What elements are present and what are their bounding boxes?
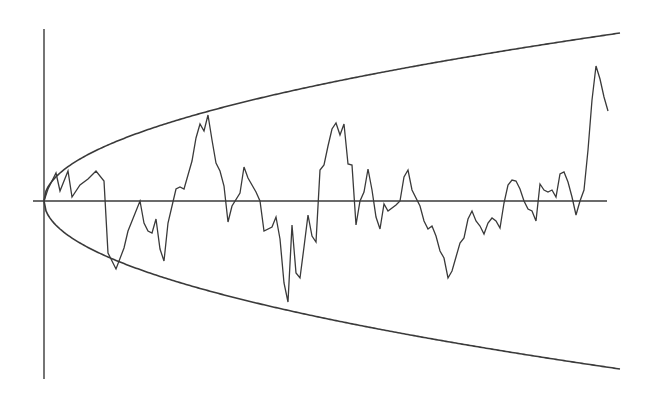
random-walk-chart — [0, 0, 647, 401]
upper-envelope-curve — [44, 33, 620, 201]
random-walk-series — [44, 66, 608, 302]
chart-canvas — [0, 0, 647, 401]
